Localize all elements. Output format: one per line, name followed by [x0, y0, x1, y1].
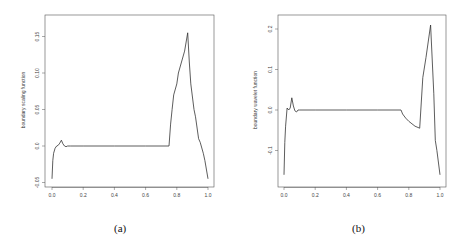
y-tick-label: 0.15 — [34, 31, 40, 41]
y-axis-title: boundary scaling function — [20, 71, 26, 128]
x-tick-label: 0.6 — [374, 192, 381, 198]
x-tick-label: 1.0 — [205, 192, 212, 198]
y-axis-title: boundary wavelet function — [252, 71, 258, 129]
y-tick-label: 0.2 — [267, 25, 273, 32]
x-tick-label: 0.0 — [281, 192, 288, 198]
x-tick-label: 0.4 — [111, 192, 118, 198]
series-line — [52, 33, 208, 179]
plot-frame — [278, 15, 446, 187]
x-tick-label: 0.6 — [142, 192, 149, 198]
x-tick-label: 0.2 — [80, 192, 87, 198]
x-tick-label: 0.2 — [312, 192, 319, 198]
caption-b: (b) — [352, 222, 365, 234]
chart-panel-a: 0.00.20.40.60.81.0-0.050.00.050.100.15bo… — [0, 0, 240, 247]
x-tick-label: 1.0 — [437, 192, 444, 198]
y-tick-label: -0.1 — [267, 146, 273, 155]
x-tick-label: 0.8 — [173, 192, 180, 198]
y-tick-label: 0.10 — [34, 68, 40, 78]
x-tick-label: 0.0 — [49, 192, 56, 198]
plot-frame — [45, 15, 214, 187]
x-tick-label: 0.8 — [405, 192, 412, 198]
y-tick-label: 0.0 — [34, 142, 40, 149]
y-tick-label: 0.0 — [267, 106, 273, 113]
chart-b-svg: 0.00.20.40.60.81.0-0.10.00.10.2boundary … — [240, 0, 471, 247]
chart-b-plot-area: 0.00.20.40.60.81.0-0.10.00.10.2boundary … — [252, 15, 446, 198]
y-tick-label: 0.05 — [34, 104, 40, 114]
caption-a: (a) — [114, 222, 126, 234]
y-tick-label: -0.05 — [34, 177, 40, 189]
series-line — [284, 25, 440, 175]
chart-a-plot-area: 0.00.20.40.60.81.0-0.050.00.050.100.15bo… — [20, 15, 214, 198]
chart-panel-b: 0.00.20.40.60.81.0-0.10.00.10.2boundary … — [240, 0, 471, 247]
chart-a-svg: 0.00.20.40.60.81.0-0.050.00.050.100.15bo… — [0, 0, 240, 247]
x-tick-label: 0.4 — [343, 192, 350, 198]
y-tick-label: 0.1 — [267, 66, 273, 73]
